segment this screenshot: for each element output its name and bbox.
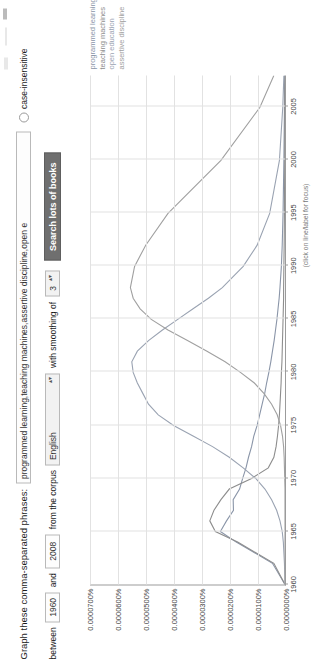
year-start-input[interactable]: 1960 [45, 592, 60, 622]
ngram-chart: 0.0000700%0.0000600%0.0000500%0.0000400%… [88, 7, 316, 659]
ngram-query-form: Graph these comma-separated phrases: pro… [16, 7, 78, 659]
y-gridline [146, 75, 147, 584]
phrases-input[interactable]: programmed learning,teaching machines,as… [16, 131, 31, 483]
x-axis-tick-mark [285, 264, 288, 265]
y-axis-tick-label: 0.0000400% [170, 588, 179, 630]
x-gridline [90, 158, 285, 159]
search-button[interactable]: Search lots of books [44, 152, 61, 261]
scan-artifacts [0, 0, 14, 667]
y-gridline [90, 75, 91, 584]
x-axis-tick-label: 1985 [289, 310, 298, 327]
y-gridline [118, 75, 119, 584]
x-gridline [90, 317, 285, 318]
y-axis-tick-label: 0.0000000% [282, 588, 291, 630]
artifact-mark [5, 27, 7, 45]
y-axis-tick-label: 0.0000500% [142, 588, 151, 630]
x-gridline [90, 477, 285, 478]
series-line[interactable] [132, 75, 285, 584]
x-axis-tick-mark [285, 583, 288, 584]
x-gridline [90, 424, 285, 425]
x-axis-tick-mark [285, 317, 288, 318]
x-axis-tick-mark [285, 211, 288, 212]
year-end-input[interactable]: 2008 [45, 534, 60, 568]
focus-hint: (click on line/label for focus) [302, 183, 309, 267]
and-label: and [48, 573, 58, 587]
artifact-mark [3, 8, 7, 19]
x-axis-tick-mark [285, 371, 288, 372]
checkbox-icon[interactable] [19, 112, 29, 122]
x-gridline [90, 264, 285, 265]
y-axis-tick-label: 0.0000600% [114, 588, 123, 630]
smoothing-select[interactable]: 3 ▴▾ [45, 270, 60, 296]
x-axis-tick-mark [285, 477, 288, 478]
x-gridline [90, 530, 285, 531]
y-gridline [258, 75, 259, 584]
case-insensitive-label: case-insensitive [19, 48, 29, 108]
y-gridline [174, 75, 175, 584]
x-gridline [90, 371, 285, 372]
plot-area[interactable]: 0.0000700%0.0000600%0.0000500%0.0000400%… [90, 75, 286, 585]
artifact-mark [4, 57, 8, 69]
y-axis-tick-label: 0.0000300% [198, 588, 207, 630]
y-gridline [202, 75, 203, 584]
x-axis-tick-label: 1990 [289, 257, 298, 274]
y-axis-tick-label: 0.0000200% [226, 588, 235, 630]
legend-item[interactable]: teaching machines [98, 0, 108, 69]
legend-item[interactable]: open education [107, 0, 117, 69]
select-arrows-icon: ▴▾ [48, 274, 53, 280]
y-axis-tick-label: 0.0000100% [254, 588, 263, 630]
legend-item[interactable]: programmed learning [88, 0, 98, 69]
x-axis-tick-label: 1960 [289, 576, 298, 593]
x-axis-tick-label: 1975 [289, 416, 298, 433]
corpus-select-value: English [48, 432, 58, 460]
series-line[interactable] [210, 75, 285, 584]
x-axis-tick-label: 1995 [289, 204, 298, 221]
x-axis-tick-label: 2005 [289, 98, 298, 115]
x-gridline [90, 105, 285, 106]
x-axis-tick-mark [285, 105, 288, 106]
x-axis-tick-label: 1965 [289, 523, 298, 540]
y-gridline [230, 75, 231, 584]
x-gridline [90, 211, 285, 212]
x-axis-tick-mark [285, 530, 288, 531]
phrase-row: Graph these comma-separated phrases: pro… [16, 48, 31, 659]
series-line[interactable] [130, 75, 285, 584]
case-insensitive-control[interactable]: case-insensitive [19, 48, 29, 122]
select-arrows-icon: ▴▾ [48, 377, 53, 383]
rotated-page-wrapper: Graph these comma-separated phrases: pro… [0, 0, 328, 667]
x-axis-tick-label: 1980 [289, 363, 298, 380]
smoothing-select-value: 3 [48, 286, 58, 291]
y-axis-tick-label: 0.0000700% [86, 588, 95, 630]
x-axis-tick-mark [285, 158, 288, 159]
x-axis-tick-label: 1970 [289, 469, 298, 486]
smoothing-label: with smoothing of [48, 301, 58, 367]
corpus-select[interactable]: English ▴▾ [45, 373, 60, 465]
phrases-label: Graph these comma-separated phrases: [18, 488, 29, 659]
x-axis-tick-mark [285, 424, 288, 425]
corpus-label: from the corpus [48, 470, 58, 529]
chart-legend: programmed learningteaching machinesopen… [88, 0, 126, 69]
legend-item[interactable]: assertive discipline [117, 0, 127, 69]
options-row: between 1960 and 2008 from the corpus En… [44, 152, 61, 659]
between-label: between [48, 627, 58, 659]
x-axis-tick-label: 2000 [289, 151, 298, 168]
series-lines [90, 75, 285, 584]
